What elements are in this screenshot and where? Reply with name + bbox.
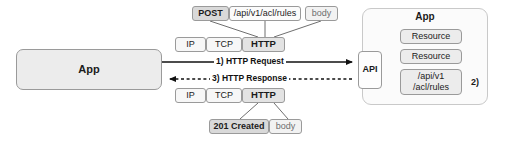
request-method-label: POST [198,9,223,19]
response-status-cell: 201 Created [209,119,269,134]
request-header-connectors [210,21,321,37]
request-tcp-label: TCP [215,40,233,50]
response-http-label: HTTP [251,90,276,100]
api-gateway-box: API [358,51,382,89]
server-endpoint-line1: /api/v1 [418,71,445,82]
request-method-cell: POST [192,6,229,21]
response-body-label: body [276,122,296,132]
response-ip-cell: IP [175,88,206,103]
request-ip-label: IP [186,40,195,50]
request-body-cell: body [305,6,338,21]
request-path-label: /api/v1/acl/rules [234,9,297,19]
server-resource-1-label: Resource [412,32,451,42]
request-http-cell: HTTP [242,37,285,52]
request-tcp-cell: TCP [206,37,242,52]
client-app-label: App [78,64,99,76]
request-http-label: HTTP [251,39,276,49]
step-two-label: 2) [466,77,484,89]
response-ip-label: IP [186,91,195,101]
server-resource-1: Resource [400,29,462,44]
api-gateway-label: API [362,65,377,75]
request-body-label: body [312,9,332,19]
response-detail-connectors [240,103,288,119]
request-path-cell: /api/v1/acl/rules [229,6,301,21]
response-status-label: 201 Created [213,122,264,132]
request-flow-label: 1) HTTP Request [214,56,286,66]
response-tcp-label: TCP [215,91,233,101]
server-resource-2-label: Resource [412,52,451,62]
server-endpoint-line2: /acl/rules [413,82,449,93]
response-http-cell: HTTP [242,88,285,103]
server-app-title: App [362,11,488,23]
response-tcp-cell: TCP [206,88,242,103]
response-flow-label: 3) HTTP Response [210,73,289,83]
server-endpoint-box: /api/v1 /acl/rules [400,69,462,95]
diagram-canvas: App POST /api/v1/acl/rules body IP TCP H… [0,0,506,144]
client-app-box: App [16,49,162,90]
response-body-cell: body [269,119,302,134]
request-ip-cell: IP [175,37,206,52]
server-resource-2: Resource [400,49,462,64]
